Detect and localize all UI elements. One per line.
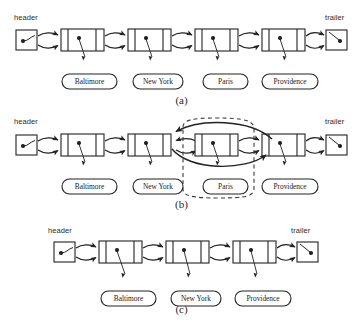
oval-label-newyork-a: New York (143, 77, 173, 86)
node-newyork-b (128, 134, 171, 162)
node-newyork-c (166, 241, 209, 274)
link-arrows-c-2 (143, 245, 163, 260)
link-arrows-a-1 (38, 33, 58, 48)
oval-label-paris-a: Paris (218, 77, 233, 86)
oval-label-newyork-b: New York (143, 182, 173, 191)
node-baltimore-a (61, 29, 104, 57)
oval-label-baltimore-a: Baltimore (75, 77, 105, 86)
panel-b-diagram: Baltimore New York Paris Providence (0, 105, 363, 205)
node-newyork-a (128, 29, 171, 57)
link-arrows-b-3 (176, 139, 196, 153)
node-header-a (16, 30, 37, 50)
oval-label-providence-c: Providence (246, 294, 280, 303)
node-paris-a (195, 29, 238, 57)
caption-c: (c) (0, 303, 363, 315)
link-arrows-b-1 (38, 138, 58, 153)
link-arrows-c-1 (76, 245, 96, 260)
link-arrows-b-2 (105, 138, 125, 153)
node-header-b (16, 135, 37, 155)
link-arrows-b-4 (239, 138, 259, 153)
node-trailer-b (326, 135, 347, 155)
oval-label-providence-b: Providence (273, 182, 307, 191)
figure-root: header trailer (0, 0, 363, 334)
link-arrows-a-5 (306, 33, 324, 48)
link-arrows-c-4 (277, 245, 295, 260)
node-paris-b (195, 134, 238, 162)
link-arrows-a-3 (172, 33, 192, 48)
oval-label-providence-a: Providence (273, 77, 307, 86)
node-providence-c (233, 241, 276, 274)
oval-label-newyork-c: New York (181, 294, 211, 303)
link-arrows-c-3 (210, 245, 230, 260)
node-providence-b (262, 134, 305, 162)
node-baltimore-c (99, 241, 142, 274)
node-baltimore-b (61, 134, 104, 162)
oval-label-baltimore-b: Baltimore (75, 182, 105, 191)
link-arrows-b-5 (306, 138, 324, 153)
link-arrows-a-2 (105, 33, 125, 48)
panel-a-diagram: Baltimore New York Paris Providence (0, 0, 363, 100)
oval-label-paris-b: Paris (218, 182, 233, 191)
node-providence-a (262, 29, 305, 57)
oval-label-baltimore-c: Baltimore (114, 294, 144, 303)
node-trailer-c (297, 242, 318, 262)
link-arrows-a-4 (239, 33, 259, 48)
node-trailer-a (326, 30, 347, 50)
caption-b: (b) (0, 198, 363, 210)
node-header-c (54, 242, 75, 262)
